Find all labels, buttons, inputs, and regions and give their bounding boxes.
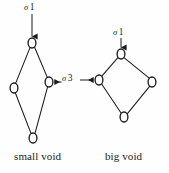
edge-bleft-bbottom <box>102 84 121 113</box>
caption-big-void: big void <box>105 150 142 162</box>
label-sigma1-small: σ1 <box>24 2 34 12</box>
big-void-nodes <box>95 49 156 122</box>
edge-left-bottom <box>15 93 31 134</box>
node-big-bottom[interactable] <box>120 112 128 122</box>
edge-bright-bbottom <box>127 86 149 114</box>
diagram-canvas <box>0 0 169 173</box>
graph-big-void <box>95 49 156 122</box>
caption-small-void: small void <box>14 150 61 162</box>
node-small-right[interactable] <box>45 77 53 87</box>
edge-right-bottom <box>35 87 48 134</box>
sigma-index: 1 <box>28 2 34 12</box>
node-small-bottom[interactable] <box>29 133 37 143</box>
edge-btop-bleft <box>102 58 118 77</box>
edge-btop-bright <box>124 58 149 78</box>
big-void-edges <box>102 58 150 114</box>
node-big-right[interactable] <box>148 77 156 87</box>
node-big-left[interactable] <box>95 75 103 85</box>
node-big-top[interactable] <box>117 49 125 59</box>
node-small-top[interactable] <box>28 38 36 48</box>
graph-small-void <box>10 38 53 143</box>
void-diagram-figure: σ1 σ1 σ3 small void big void <box>0 0 169 173</box>
label-sigma1-big: σ1 <box>113 27 123 37</box>
node-small-left[interactable] <box>10 83 18 93</box>
sigma-index: 3 <box>66 73 72 83</box>
label-sigma3: σ3 <box>62 73 72 83</box>
edge-top-right <box>35 47 48 77</box>
sigma-index: 1 <box>117 27 123 37</box>
small-void-edges <box>15 47 47 133</box>
edge-top-left <box>16 48 30 84</box>
